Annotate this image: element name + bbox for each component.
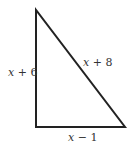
hypotenuse-label: x + 8 bbox=[83, 56, 112, 69]
triangle-diagram: x + 6 x + 8 x − 1 bbox=[0, 0, 130, 145]
bottom-side-label: x − 1 bbox=[68, 131, 97, 144]
left-side-label: x + 6 bbox=[8, 66, 37, 79]
